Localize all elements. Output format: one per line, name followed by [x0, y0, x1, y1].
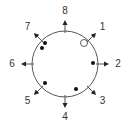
direction-label-8: 8 [62, 6, 68, 16]
arrowhead-icon [63, 20, 68, 25]
arrowhead-icon [63, 103, 68, 108]
direction-arrows [21, 20, 109, 108]
filled-dot [40, 46, 44, 50]
filled-dot [91, 61, 95, 65]
direction-label-1: 1 [100, 22, 106, 32]
direction-label-7: 7 [25, 22, 31, 32]
direction-label-3: 3 [100, 96, 106, 106]
open-dot [81, 40, 88, 47]
arrowhead-icon [21, 62, 26, 67]
filled-dot [74, 87, 78, 91]
direction-label-2: 2 [115, 59, 121, 69]
data-points [40, 40, 95, 92]
filled-dot [43, 81, 47, 85]
filled-dot [43, 41, 47, 45]
direction-label-6: 6 [9, 59, 15, 69]
arrowhead-icon [104, 62, 109, 67]
direction-label-5: 5 [25, 96, 31, 106]
direction-label-4: 4 [62, 112, 68, 122]
direction-diagram [0, 0, 127, 126]
